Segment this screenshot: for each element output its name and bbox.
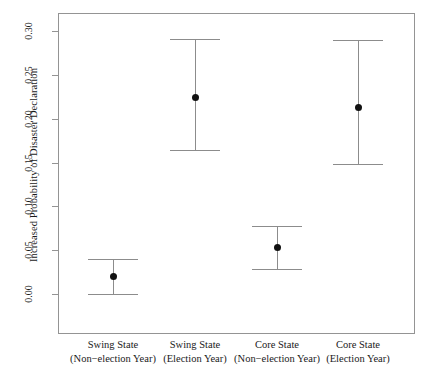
data-point	[274, 244, 281, 251]
y-tick-mark	[52, 250, 58, 251]
errorbar-cap-lower	[252, 269, 302, 270]
errorbar-line	[358, 40, 359, 164]
x-axis-label-line1: Swing State	[88, 339, 138, 350]
errorbar-cap-lower	[170, 150, 220, 151]
errorbar-cap-upper	[170, 39, 220, 40]
y-tick-mark	[52, 206, 58, 207]
data-point	[110, 273, 117, 280]
y-tick-mark	[52, 75, 58, 76]
errorbar-cap-lower	[333, 164, 383, 165]
errorbar-cap-upper	[88, 259, 138, 260]
errorbar-cap-upper	[252, 226, 302, 227]
y-tick-label: 0.10	[22, 189, 36, 223]
data-point	[355, 104, 362, 111]
x-axis-label: Core State(Election Year)	[298, 338, 418, 365]
y-tick-mark	[52, 31, 58, 32]
errorbar-cap-upper	[333, 40, 383, 41]
data-point	[192, 94, 199, 101]
chart-container: Increased Probability of Disaster Declar…	[0, 0, 422, 369]
y-tick-label: 0.20	[22, 102, 36, 136]
x-axis-label-line1: Core State	[336, 339, 380, 350]
y-tick-label: 0.30	[22, 14, 36, 48]
x-axis-label-line1: Swing State	[170, 339, 220, 350]
y-tick-mark	[52, 119, 58, 120]
errorbar-cap-lower	[88, 294, 138, 295]
y-tick-label: 0.00	[22, 277, 36, 311]
y-tick-label: 0.05	[22, 233, 36, 267]
y-tick-mark	[52, 163, 58, 164]
y-tick-label: 0.15	[22, 146, 36, 180]
y-tick-label: 0.25	[22, 58, 36, 92]
x-axis-label-line2: (Election Year)	[298, 352, 418, 366]
x-axis-label-line1: Core State	[255, 339, 299, 350]
y-tick-mark	[52, 294, 58, 295]
